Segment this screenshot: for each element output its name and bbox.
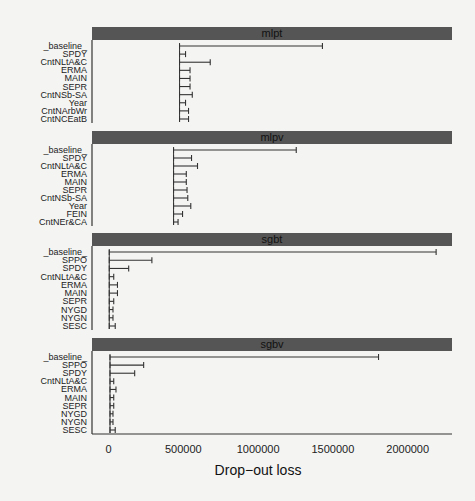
category-label: SESC xyxy=(62,425,87,435)
facet-title: mlpv xyxy=(260,131,284,143)
facet-title: sgbt xyxy=(262,233,283,245)
facet-title: mlpt xyxy=(262,27,283,39)
x-tick-label: 0 xyxy=(105,443,111,455)
x-tick-label: 500000 xyxy=(165,443,202,455)
x-tick-label: 1500000 xyxy=(311,443,354,455)
x-tick-label: 1000000 xyxy=(237,443,280,455)
category-label: SESC xyxy=(62,321,87,331)
category-label: CntNEr&CA xyxy=(39,217,87,227)
facet-title: sgbv xyxy=(260,338,284,350)
x-axis-title: Drop−out loss xyxy=(215,462,302,478)
category-label: CntNCEatB xyxy=(40,114,87,124)
faceted-dropout-chart: mlpt_baseline_SPDYCntNLtA&CERMAMAINSEPRC… xyxy=(0,0,475,501)
x-tick-label: 2000000 xyxy=(386,443,429,455)
